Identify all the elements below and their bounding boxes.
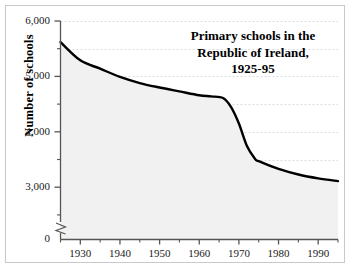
chart-figure: Number of schools Primary schools in the… [0,0,352,274]
x-tick-label: 1970 [219,248,259,259]
x-tick-label: 1990 [298,248,338,259]
y-tick-label: 3,000 [0,181,50,192]
y-tick-label: 6,000 [0,15,50,26]
y-axis-title: Number of schools [22,11,37,161]
x-tick-label: 1930 [60,248,100,259]
y-tick-label: 4,000 [0,126,50,137]
chart-title-line-2: Republic of Ireland, [168,45,338,62]
chart-title-line-3: 1925-95 [168,61,338,78]
chart-title-line-1: Primary schools in the [168,28,338,45]
x-tick-label: 1980 [259,248,299,259]
x-tick-label: 1940 [100,248,140,259]
y-origin-label: 0 [0,233,50,244]
x-tick-label: 1960 [179,248,219,259]
chart-title: Primary schools in the Republic of Irela… [168,28,338,78]
y-tick-label: 5,000 [0,70,50,81]
x-tick-label: 1950 [140,248,180,259]
